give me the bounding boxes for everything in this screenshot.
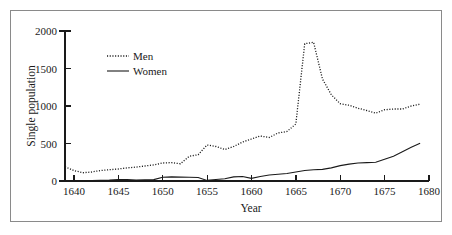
y-axis-line bbox=[59, 31, 65, 181]
legend-label-men: Men bbox=[133, 50, 154, 62]
y-axis-title: Single population bbox=[25, 65, 38, 147]
legend-label-women: Women bbox=[133, 65, 167, 77]
y-tick-label-0: 0 bbox=[52, 175, 58, 187]
x-tick-label-1660: 1660 bbox=[241, 185, 264, 197]
x-tick-label-1640: 1640 bbox=[63, 185, 86, 197]
x-tick-label-1650: 1650 bbox=[152, 185, 175, 197]
x-tick-label-1680: 1680 bbox=[418, 185, 441, 197]
y-tick-label-1500: 1500 bbox=[35, 63, 58, 75]
y-tick-label-2000: 2000 bbox=[35, 25, 58, 37]
series-line-men bbox=[65, 42, 420, 173]
x-tick-label-1645: 1645 bbox=[107, 185, 130, 197]
x-tick-label-1665: 1665 bbox=[285, 185, 308, 197]
x-tick-label-1675: 1675 bbox=[374, 185, 397, 197]
legend: Men Women bbox=[107, 50, 167, 77]
y-tick-label-500: 500 bbox=[41, 138, 58, 150]
x-tick-label-1655: 1655 bbox=[196, 185, 219, 197]
y-tick-label-1000: 1000 bbox=[35, 100, 58, 112]
figure-frame: 2000 1500 1000 500 0 1640 1645 1650 1655… bbox=[10, 10, 442, 222]
x-tick-label-1670: 1670 bbox=[329, 185, 352, 197]
x-axis-title: Year bbox=[240, 202, 261, 214]
y-tick-marks bbox=[65, 31, 71, 181]
line-chart: 2000 1500 1000 500 0 1640 1645 1650 1655… bbox=[11, 11, 441, 221]
